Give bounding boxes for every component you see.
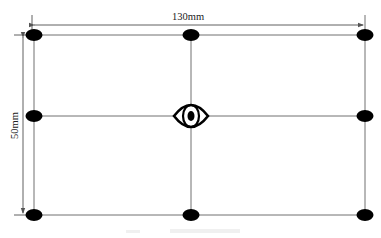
point-middle-right — [357, 110, 374, 122]
eye-icon — [174, 104, 208, 128]
faint-caption-smudge — [126, 229, 240, 233]
height-label: 50mm — [9, 112, 20, 139]
point-bottom-right — [357, 209, 374, 221]
point-top-left — [26, 29, 43, 41]
width-label: 130mm — [172, 11, 204, 22]
point-middle-left — [26, 110, 43, 122]
point-bottom-left — [26, 209, 43, 221]
calibration-grid-diagram: 130mm 50mm — [0, 0, 381, 238]
point-top-right — [357, 29, 374, 41]
point-top-center — [183, 29, 200, 41]
point-bottom-center — [183, 209, 200, 221]
